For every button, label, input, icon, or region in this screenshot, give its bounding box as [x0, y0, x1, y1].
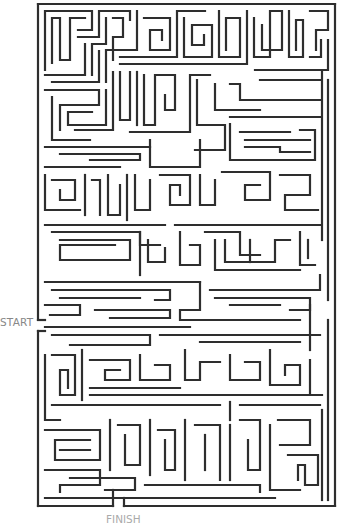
finish-label: FINISH [106, 513, 141, 525]
maze-walls [45, 11, 328, 506]
start-label: START [0, 316, 33, 328]
start-opening [38, 320, 45, 331]
